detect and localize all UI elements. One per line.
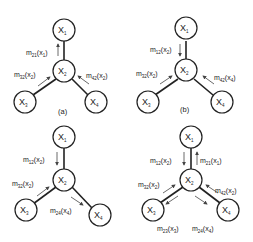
message-label: m42(x2) [215, 187, 237, 196]
node-x1: X1 [53, 126, 75, 148]
message-label: m12(x2) [150, 157, 172, 166]
panel-b: X1 X2 X3 X4 m12(x2) m32(x2) m42(x4) (b) [136, 17, 236, 114]
message-label: m32(x2) [138, 181, 160, 190]
message-label: m42(x2) [86, 72, 108, 81]
node-x4: X4 [89, 204, 111, 226]
node-x3: X3 [15, 199, 37, 221]
message-label: m21(x1) [26, 49, 48, 58]
node-x1: X1 [175, 17, 197, 39]
arrow-icon [71, 197, 83, 205]
node-x1: X1 [180, 126, 202, 148]
panel-d: X1 X2 X3 X4 m12(x2) m21(x1) m32(x2) m42(… [138, 126, 239, 234]
node-x4: X4 [217, 199, 239, 221]
panel-a: X1 X2 X3 X4 m21(x1) m32(x2) m42(x2) (a) [14, 19, 108, 116]
node-x4: X4 [211, 91, 233, 113]
panel-caption: (b) [180, 105, 190, 114]
message-label: m42(x4) [214, 74, 236, 83]
node-x2: X2 [53, 169, 75, 191]
node-x3: X3 [137, 91, 159, 113]
message-label: m32(x2) [136, 70, 158, 79]
node-x2: X2 [53, 60, 75, 82]
edge-x2-x3 [33, 187, 56, 204]
message-label: m24(x4) [192, 225, 214, 234]
arrow-icon [163, 185, 175, 193]
message-passing-diagram: X1 X2 X3 X4 m21(x1) m32(x2) m42(x2) (a) [0, 0, 253, 242]
message-label: m21(x1) [200, 157, 222, 166]
message-label: m32(x2) [12, 180, 34, 189]
message-label: m12(x2) [150, 46, 172, 55]
message-label: m32(x2) [14, 71, 36, 80]
panel-c: X1 X2 X3 X4 m12(x2) m32(x2) m24(x4) [12, 126, 111, 226]
arrow-icon [195, 196, 207, 204]
node-x2: X2 [180, 169, 202, 191]
node-x4: X4 [85, 91, 107, 113]
node-x3: X3 [14, 91, 36, 113]
node-x2: X2 [175, 59, 197, 81]
edge-x2-x4 [72, 187, 92, 208]
message-label: m12(x2) [23, 156, 45, 165]
edge-x2-x3 [155, 79, 178, 95]
arrow-icon [160, 76, 172, 84]
node-x3: X3 [142, 199, 164, 221]
node-x1: X1 [53, 19, 75, 41]
message-label: m23(x3) [157, 225, 179, 234]
arrow-icon [37, 187, 49, 196]
message-label: m24(x4) [50, 207, 72, 216]
arrow-icon [203, 76, 214, 84]
panel-caption: (a) [58, 107, 68, 116]
